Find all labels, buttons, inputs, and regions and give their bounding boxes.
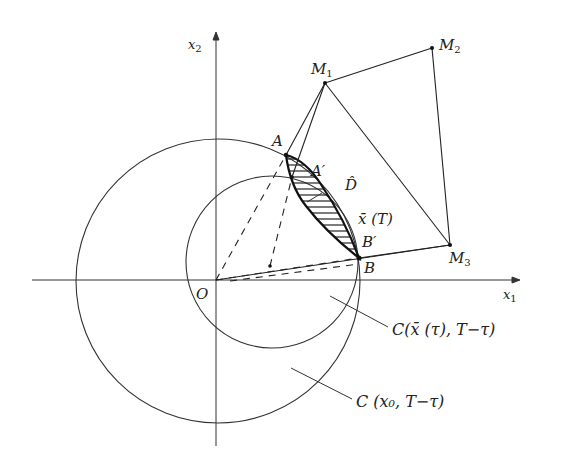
x1-axis-arrow-icon [512, 277, 520, 283]
point-label-B-prime: B′ [362, 235, 376, 250]
diagram-canvas [0, 0, 567, 461]
point-label-B: B [364, 261, 375, 276]
region-D-hat-label: D̂ [345, 178, 357, 193]
circle-large-label: C (x₀, T−τ) [356, 394, 444, 410]
point-label-A: A [272, 134, 283, 149]
x2-axis-label: x12 [188, 38, 202, 54]
circle-small-label: C(x̄ (τ), T−τ) [392, 322, 495, 338]
point-dots [268, 46, 452, 268]
polygon-M [216, 48, 450, 280]
trajectory-label: x̄ (T) [358, 212, 393, 227]
x2-axis-arrow-icon [213, 32, 219, 40]
point-label-A-prime: A′ [311, 164, 325, 179]
x1-axis-label: x1 [503, 288, 517, 304]
point-label-M2: M2 [439, 38, 461, 55]
point-label-M3: M3 [449, 251, 471, 268]
origin-label: O [196, 287, 208, 302]
axes [32, 32, 520, 446]
point-label-M1: M1 [311, 62, 333, 79]
